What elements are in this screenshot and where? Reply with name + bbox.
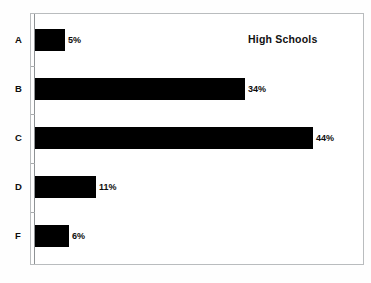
bar-value-a: 5% [68, 29, 81, 51]
category-label-a: A [15, 29, 29, 51]
bar-value-d: 11% [99, 176, 117, 198]
bar-chart-figure: High Schools A 5% B 34% C 44% D 11% F 6% [0, 0, 371, 283]
bar-value-b: 34% [248, 78, 266, 100]
bar-b [35, 78, 245, 100]
bar-d [35, 176, 96, 198]
axis-tick [31, 66, 35, 67]
bar-a [35, 29, 65, 51]
category-label-b: B [15, 78, 29, 100]
category-label-d: D [15, 176, 29, 198]
category-label-c: C [15, 127, 29, 149]
category-label-f: F [15, 225, 29, 247]
axis-tick [31, 212, 35, 213]
bar-c [35, 127, 313, 149]
axis-tick [31, 114, 35, 115]
axis-tick [31, 163, 35, 164]
bar-value-f: 6% [72, 225, 85, 247]
bar-value-c: 44% [316, 127, 334, 149]
bar-f [35, 225, 69, 247]
chart-title: High Schools [248, 33, 318, 45]
